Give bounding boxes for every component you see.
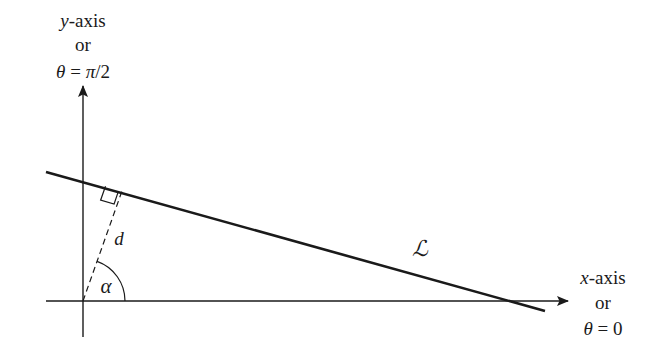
angle-alpha-label: α <box>100 274 112 298</box>
distance-d-label: d <box>114 228 124 249</box>
svg-text:or: or <box>595 292 612 313</box>
polar-line-diagram: y-axis or θ = π/2 x-axis or θ = 0 ℒ d α <box>0 0 655 348</box>
svg-text:θ = 0: θ = 0 <box>583 318 622 339</box>
svg-text:y-axis: y-axis <box>58 10 105 31</box>
line-L-label: ℒ <box>412 236 429 261</box>
svg-text:θ = π/2: θ = π/2 <box>56 61 110 82</box>
y-axis-label: y-axis or θ = π/2 <box>56 10 110 82</box>
svg-text:x-axis: x-axis <box>579 267 625 288</box>
svg-text:or: or <box>75 34 92 55</box>
x-axis-label: x-axis or θ = 0 <box>579 267 625 339</box>
